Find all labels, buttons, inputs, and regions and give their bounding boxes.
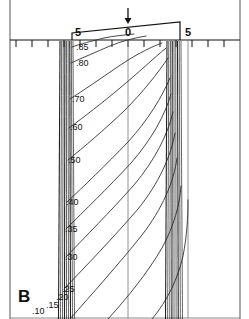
contour-value-label: .85 [76,42,89,52]
contour-value-label: .10 [32,306,45,316]
bundle-line [70,41,71,319]
axis-tick-label: 5 [75,26,81,38]
contour-value-label: .40 [66,197,79,207]
bundle-line [170,41,171,319]
bundle-line [59,41,61,319]
figure-frame [10,0,240,319]
contour-curve [66,94,171,229]
contour-curve [70,158,177,319]
bundle-line [179,41,180,319]
contour-curve [68,58,168,160]
bundle-line [61,41,62,319]
contour-value-label: .30 [65,252,78,262]
bundle-line [63,41,64,319]
axis-tick-label: 0 [125,26,131,38]
contour-value-label: .60 [70,122,83,132]
contour-plot: 505 .85.80.70.60.50.40.35.30.25.20.15.10… [0,0,249,319]
contour-value-label: .15 [46,300,59,310]
axis-tick-group [16,40,224,47]
bundle-line [166,41,168,319]
contour-value-label: .80 [76,58,89,68]
bundle-line [181,41,183,319]
contour-value-label: .35 [65,224,78,234]
bundle-line [71,41,72,319]
down-arrow-marker [125,8,132,24]
figure-panel-b: 505 .85.80.70.60.50.40.35.30.25.20.15.10… [0,0,249,319]
bundle-line [178,41,179,319]
axis-tick-label-group: 505 [75,26,191,38]
left-line-bundle [59,41,75,319]
contour-curve [66,112,173,257]
contour-curve-group [64,34,188,319]
contour-value-label: .70 [72,94,85,104]
bundle-line [73,41,75,319]
panel-label: B [18,287,30,306]
axis-tick-label: 5 [185,26,191,38]
contour-value-label: .50 [68,155,81,165]
